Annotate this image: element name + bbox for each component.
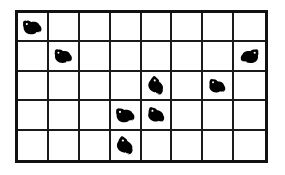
mouse-icon	[203, 72, 232, 99]
grid-board	[15, 10, 268, 163]
grid-cell-r1c2[interactable]	[49, 13, 80, 42]
grid-cell-r2c6[interactable]	[172, 42, 203, 71]
mouse-icon	[142, 101, 171, 128]
grid-cell-r3c4[interactable]	[111, 72, 142, 101]
grid-cell-r2c4[interactable]	[111, 42, 142, 71]
grid-cell-r3c1[interactable]	[18, 72, 49, 101]
grid-cell-r1c8[interactable]	[234, 13, 265, 42]
grid-cell-r5c4[interactable]	[111, 131, 142, 160]
grid-cell-r5c7[interactable]	[203, 131, 234, 160]
grid-cell-r5c8[interactable]	[234, 131, 265, 160]
grid-cell-r4c7[interactable]	[203, 101, 234, 130]
grid-cells-container	[18, 13, 265, 160]
grid-cell-r4c3[interactable]	[80, 101, 111, 130]
grid-cell-r5c2[interactable]	[49, 131, 80, 160]
grid-cell-r5c5[interactable]	[142, 131, 173, 160]
grid-cell-r5c1[interactable]	[18, 131, 49, 160]
grid-cell-r2c7[interactable]	[203, 42, 234, 71]
figure-canvas	[0, 0, 285, 175]
grid-cell-r2c3[interactable]	[80, 42, 111, 71]
grid-cell-r5c6[interactable]	[172, 131, 203, 160]
mouse-icon	[111, 101, 140, 128]
mouse-icon	[49, 42, 78, 69]
grid-cell-r3c6[interactable]	[172, 72, 203, 101]
mouse-icon	[234, 42, 265, 69]
mouse-icon	[142, 72, 171, 99]
grid-cell-r3c3[interactable]	[80, 72, 111, 101]
grid-cell-r1c4[interactable]	[111, 13, 142, 42]
grid-cell-r4c1[interactable]	[18, 101, 49, 130]
grid-cell-r3c2[interactable]	[49, 72, 80, 101]
grid-cell-r1c3[interactable]	[80, 13, 111, 42]
grid-cell-r4c5[interactable]	[142, 101, 173, 130]
grid-cell-r3c8[interactable]	[234, 72, 265, 101]
grid-cell-r2c5[interactable]	[142, 42, 173, 71]
mouse-icon	[18, 13, 47, 40]
grid-cell-r1c7[interactable]	[203, 13, 234, 42]
mouse-icon	[111, 131, 140, 160]
grid-cell-r4c2[interactable]	[49, 101, 80, 130]
grid-cell-r2c2[interactable]	[49, 42, 80, 71]
grid-cell-r5c3[interactable]	[80, 131, 111, 160]
grid-cell-r3c5[interactable]	[142, 72, 173, 101]
grid-cell-r4c4[interactable]	[111, 101, 142, 130]
grid-cell-r1c5[interactable]	[142, 13, 173, 42]
grid-cell-r2c1[interactable]	[18, 42, 49, 71]
grid-cell-r3c7[interactable]	[203, 72, 234, 101]
grid-cell-r4c6[interactable]	[172, 101, 203, 130]
grid-cell-r1c6[interactable]	[172, 13, 203, 42]
grid-cell-r4c8[interactable]	[234, 101, 265, 130]
grid-cell-r1c1[interactable]	[18, 13, 49, 42]
grid-cell-r2c8[interactable]	[234, 42, 265, 71]
